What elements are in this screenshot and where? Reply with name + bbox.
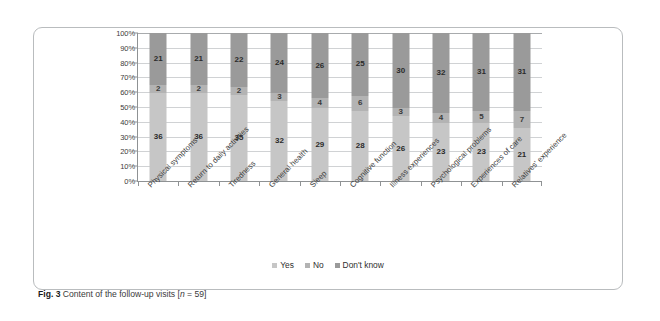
figure-caption: Fig. 3 Content of the follow-up visits […: [38, 289, 598, 299]
y-axis-labels: 0%10%20%30%40%50%60%70%80%90%100%: [105, 33, 135, 181]
bar-value-label: 2: [196, 85, 200, 93]
bar-value-label: 4: [439, 114, 443, 122]
bar-value-label: 32: [437, 69, 446, 77]
bar-value-label: 31: [477, 68, 486, 76]
bar-value-label: 7: [520, 116, 524, 124]
bar-value-label: 5: [479, 113, 483, 121]
y-axis-tick-mark: [134, 77, 138, 78]
y-axis-tick-label: 60%: [120, 88, 135, 97]
bar-value-label: 2: [237, 87, 241, 95]
legend-item[interactable]: Don't know: [335, 260, 384, 270]
bar-value-label: 29: [315, 141, 324, 149]
bar-segment-dk[interactable]: 22: [231, 33, 248, 87]
bar-segment-no[interactable]: 7: [513, 111, 530, 129]
legend-label: No: [313, 260, 324, 270]
chart-axes: 2123621236222352433226429256283032632423…: [138, 33, 542, 181]
bar-segment-no[interactable]: 5: [473, 111, 490, 124]
bar-value-label: 2: [156, 85, 160, 93]
bar-segment-no[interactable]: 4: [311, 98, 328, 108]
y-axis-tick-mark: [134, 33, 138, 34]
stacked-bar[interactable]: 21236: [150, 33, 167, 181]
stacked-bar[interactable]: 32423: [433, 33, 450, 181]
x-axis-tick-mark: [502, 181, 503, 186]
bar-value-label: 6: [358, 99, 362, 107]
y-axis-tick-label: 40%: [120, 117, 135, 126]
x-axis-tick-mark: [138, 181, 139, 186]
x-axis-tick-mark: [219, 181, 220, 186]
bar-value-label: 24: [275, 59, 284, 67]
y-axis-tick-label: 30%: [120, 132, 135, 141]
bar-value-label: 23: [437, 148, 446, 156]
bar-value-label: 30: [396, 67, 405, 75]
y-axis-tick-label: 90%: [120, 43, 135, 52]
bar-value-label: 21: [517, 151, 526, 159]
bar-value-label: 28: [356, 142, 365, 150]
y-axis-tick-label: 20%: [120, 147, 135, 156]
x-axis-tick-mark: [300, 181, 301, 186]
bar-segment-dk[interactable]: 26: [311, 33, 328, 98]
bar-value-label: 23: [477, 148, 486, 156]
y-axis-tick-label: 100%: [116, 29, 135, 38]
stacked-bar[interactable]: 30326: [392, 33, 409, 181]
bar-value-label: 21: [194, 55, 203, 63]
stacked-bar[interactable]: 24332: [271, 33, 288, 181]
legend-label: Yes: [280, 260, 294, 270]
bar-value-label: 4: [318, 99, 322, 107]
legend-swatch-icon: [272, 263, 277, 268]
stacked-bar[interactable]: 25628: [352, 33, 369, 181]
bar-segment-no[interactable]: 6: [352, 96, 369, 111]
caption-body: Content of the follow-up visits: [63, 289, 178, 299]
y-axis-tick-label: 70%: [120, 73, 135, 82]
bar-segment-dk[interactable]: 30: [392, 33, 409, 108]
y-axis-tick-mark: [134, 62, 138, 63]
bar-segment-no[interactable]: 2: [231, 87, 248, 95]
bar-value-label: 25: [356, 60, 365, 68]
y-axis-tick-mark: [134, 166, 138, 167]
bar-segment-dk[interactable]: 31: [473, 33, 490, 111]
y-axis-tick-mark: [134, 92, 138, 93]
bar-value-label: 3: [277, 93, 281, 101]
bar-segment-no[interactable]: 2: [150, 85, 167, 93]
legend-label: Don't know: [343, 260, 384, 270]
legend-item[interactable]: No: [305, 260, 324, 270]
stacked-bar[interactable]: 26429: [311, 33, 328, 181]
legend-item[interactable]: Yes: [272, 260, 294, 270]
y-axis-tick-mark: [134, 121, 138, 122]
bar-segment-no[interactable]: 3: [392, 108, 409, 116]
bar-segment-no[interactable]: 2: [190, 85, 207, 93]
y-axis-tick-mark: [134, 107, 138, 108]
bar-value-label: 21: [154, 55, 163, 63]
bar-segment-dk[interactable]: 32: [433, 33, 450, 113]
caption-label: Fig. 3: [38, 289, 60, 299]
bar-segment-dk[interactable]: 31: [513, 33, 530, 111]
y-axis-tick-mark: [134, 136, 138, 137]
y-axis-tick-label: 80%: [120, 58, 135, 67]
x-axis-tick-mark: [421, 181, 422, 186]
bar-slot: 22235: [219, 33, 259, 181]
bar-segment-dk[interactable]: 21: [150, 33, 167, 85]
y-axis-tick-label: 10%: [120, 162, 135, 171]
bar-segment-no[interactable]: 3: [271, 93, 288, 101]
caption-n-suffix: = 59]: [185, 289, 207, 299]
legend-swatch-icon: [335, 263, 340, 268]
stacked-bar[interactable]: 22235: [231, 33, 248, 181]
bar-value-label: 22: [235, 56, 244, 64]
stacked-bar[interactable]: 31721: [513, 33, 530, 181]
x-axis-tick-mark: [178, 181, 179, 186]
bar-slot: 26429: [300, 33, 340, 181]
y-axis-tick-mark: [134, 151, 138, 152]
x-axis-tick-mark: [259, 181, 260, 186]
bar-segment-dk[interactable]: 24: [271, 33, 288, 93]
x-axis-tick-mark: [380, 181, 381, 186]
stacked-bar[interactable]: 31523: [473, 33, 490, 181]
bar-segment-dk[interactable]: 21: [190, 33, 207, 85]
bar-value-label: 31: [517, 68, 526, 76]
figure-card: 0%10%20%30%40%50%60%70%80%90%100% 212362…: [33, 27, 623, 290]
bar-value-label: 36: [154, 133, 163, 141]
stacked-bar[interactable]: 21236: [190, 33, 207, 181]
bar-segment-no[interactable]: 4: [433, 113, 450, 123]
legend-swatch-icon: [305, 263, 310, 268]
bar-segment-dk[interactable]: 25: [352, 33, 369, 96]
x-axis-tick-mark: [340, 181, 341, 186]
bar-value-label: 32: [275, 137, 284, 145]
